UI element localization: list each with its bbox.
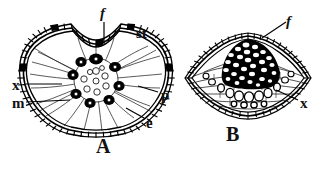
leader-e-a <box>126 108 144 118</box>
label-phloem: p <box>161 88 169 103</box>
leader-p-a <box>138 86 158 92</box>
label-fibres-b: f <box>286 14 291 29</box>
label-fibres-a: f <box>100 6 105 21</box>
label-panel-b: B <box>226 124 239 144</box>
leader-lines <box>0 0 326 170</box>
label-xylem-a: x <box>12 78 20 93</box>
label-epidermis: e <box>146 116 153 131</box>
leader-m-a <box>26 100 70 102</box>
label-mesophyll: m <box>12 96 25 111</box>
figure-canvas: f st x m p e A f x B <box>0 0 326 170</box>
label-xylem-b: x <box>300 96 308 111</box>
leader-f-b <box>262 22 286 38</box>
label-stereome: st <box>136 26 147 41</box>
leader-x-b <box>276 90 298 100</box>
label-panel-a: A <box>96 136 110 156</box>
